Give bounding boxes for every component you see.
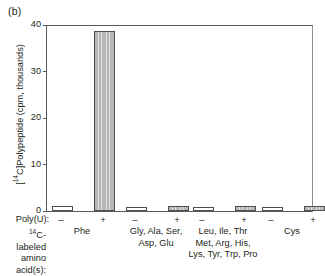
- y-axis-tick-mark: [43, 71, 47, 72]
- category-label-group-3: Leu, Ile, ThrMet, Arg, His,Lys, Tyr, Trp…: [171, 226, 275, 261]
- polyu-sign-group-2-plus: +: [171, 213, 183, 226]
- bar-group-3-polyu-plus: [235, 206, 256, 211]
- x-axis-labels: Poly(U): –+–+–+–+ 14C-labeled amino acid…: [0, 213, 324, 263]
- polyu-sign-group-4-plus: +: [307, 213, 319, 226]
- polyu-row-label: Poly(U):: [0, 213, 49, 226]
- polyu-sign-group-3-plus: +: [238, 213, 250, 226]
- bar-group-4-polyu-minus: [262, 207, 283, 211]
- y-axis-tick-label: 10: [31, 159, 41, 170]
- polyu-sign-group-1-plus: +: [97, 213, 109, 226]
- category-label-line: Lys, Tyr, Trp, Pro: [189, 249, 258, 259]
- amino-acid-row-label-line2: amino: [21, 253, 46, 263]
- amino-acid-row-label: 14C-labeled amino acid(s):: [2, 226, 46, 276]
- polyu-sign-group-3-minus: –: [196, 213, 208, 226]
- category-label-group-4: Cys: [269, 226, 315, 238]
- y-axis-tick-mark: [43, 118, 47, 119]
- y-axis-title-rest: C]Polypeptide (cpm, thousands): [15, 44, 25, 175]
- bar-group-4-polyu-plus: [304, 206, 325, 211]
- y-axis-title-superscript: 14: [12, 175, 19, 182]
- category-label-line: Leu, Ile, Thr: [199, 226, 248, 236]
- category-label-group-1: Phe: [59, 226, 105, 238]
- polyu-sign-group-1-minus: –: [55, 213, 67, 226]
- panel-label: (b): [8, 5, 21, 17]
- bar-group-2-polyu-plus: [168, 206, 189, 211]
- y-axis-tick-mark: [43, 211, 47, 212]
- plot-frame: 010203040: [46, 25, 313, 212]
- polyu-sign-group-4-minus: –: [265, 213, 277, 226]
- y-axis-tick-label: 40: [31, 19, 41, 30]
- y-axis-title: [14C]Polypeptide (cpm, thousands): [11, 20, 24, 210]
- bar-group-2-polyu-minus: [126, 207, 147, 211]
- polyu-condition-row: Poly(U): –+–+–+–+: [0, 213, 324, 226]
- category-label-line: Asp, Glu: [138, 238, 173, 248]
- category-label-line: Phe: [74, 226, 90, 236]
- y-axis-tick-label: 20: [31, 112, 41, 123]
- category-label-line: Met, Arg, His,: [195, 238, 250, 248]
- bar-group-1-polyu-plus: [94, 31, 115, 211]
- y-axis-tick-mark: [43, 164, 47, 165]
- bar-group-3-polyu-minus: [193, 207, 214, 211]
- polyu-sign-group-2-minus: –: [129, 213, 141, 226]
- category-label-line: Cys: [284, 226, 300, 236]
- bar-group-1-polyu-minus: [52, 206, 73, 211]
- plot-area: 010203040: [47, 26, 312, 211]
- y-axis-tick-mark: [43, 25, 47, 26]
- y-axis-tick-label: 30: [31, 66, 41, 77]
- amino-acid-row: 14C-labeled amino acid(s): PheGly, Ala, …: [0, 226, 324, 263]
- y-axis-title-prefix: [: [15, 182, 25, 185]
- amino-acid-row-label-line3: acid(s):: [16, 265, 46, 275]
